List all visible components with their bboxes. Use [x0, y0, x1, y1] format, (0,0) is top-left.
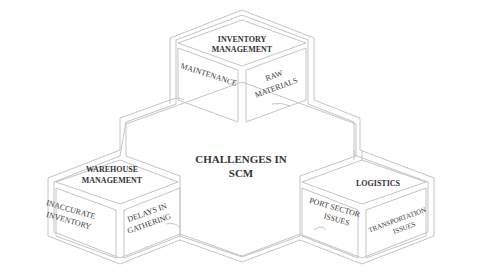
inventory-left-label: MAINTENANCE — [179, 61, 238, 88]
logistics-top-label: LOGISTICS — [356, 179, 401, 188]
inventory-top-label-2: MANAGEMENT — [212, 45, 273, 54]
scm-challenges-diagram: CHALLENGES IN SCM INVENTORY MANAGEMENT M… — [0, 0, 482, 275]
warehouse-top-label-1: WAREHOUSE — [86, 165, 138, 174]
center-title-line1: CHALLENGES IN — [195, 153, 286, 165]
inventory-top-label-1: INVENTORY — [218, 35, 267, 44]
warehouse-top-label-2: MANAGEMENT — [82, 176, 143, 185]
center-title-line2: SCM — [229, 167, 254, 179]
